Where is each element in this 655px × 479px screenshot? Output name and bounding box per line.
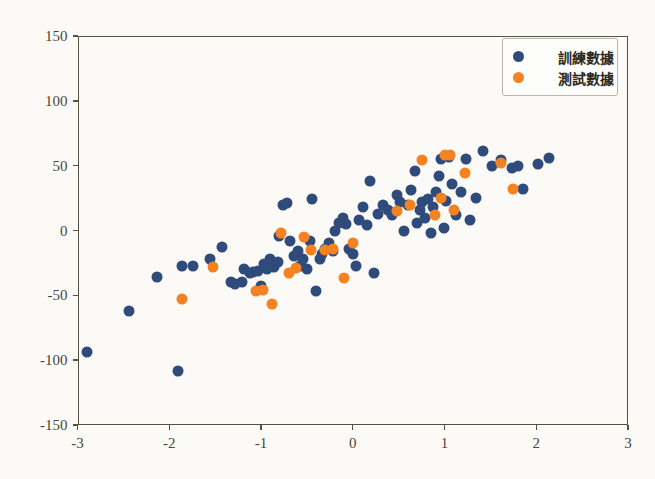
- y-tick-mark: [73, 295, 78, 296]
- x-tick-mark: [444, 425, 445, 430]
- y-tick-label: 150: [16, 28, 68, 45]
- x-tick-mark: [77, 425, 78, 430]
- x-tick-mark: [352, 425, 353, 430]
- x-tick-mark: [260, 425, 261, 430]
- chart-page: -150-100-50050100150 -3-2-10123 訓練數據 測試數…: [0, 0, 655, 479]
- chart-legend[interactable]: 訓練數據 測試數據: [502, 38, 618, 96]
- y-tick-mark: [73, 100, 78, 101]
- y-tick-label: 0: [16, 222, 68, 239]
- x-tick-label: -3: [71, 435, 84, 452]
- y-tick-mark: [73, 359, 78, 360]
- y-tick-mark: [73, 230, 78, 231]
- x-tick-label: 1: [441, 435, 449, 452]
- x-tick-label: 3: [624, 435, 632, 452]
- scatter-plot-figure: -150-100-50050100150 -3-2-10123 訓練數據 測試數…: [0, 0, 655, 479]
- legend-label-test: 測試數據: [558, 68, 614, 88]
- legend-label-train: 訓練數據: [558, 47, 614, 67]
- x-tick-label: -1: [255, 435, 268, 452]
- y-tick-label: -150: [16, 417, 68, 434]
- x-tick-label: 0: [349, 435, 357, 452]
- legend-marker-test-icon: [513, 72, 524, 83]
- y-tick-label: 50: [16, 157, 68, 174]
- x-tick-label: -2: [163, 435, 176, 452]
- legend-entry-test[interactable]: 測試數據: [513, 67, 605, 88]
- x-tick-label: 2: [533, 435, 541, 452]
- x-tick-mark: [627, 425, 628, 430]
- y-tick-label: -100: [16, 352, 68, 369]
- y-tick-label: 100: [16, 92, 68, 109]
- y-tick-mark: [73, 35, 78, 36]
- x-tick-mark: [536, 425, 537, 430]
- legend-entry-train[interactable]: 訓練數據: [513, 46, 605, 67]
- legend-marker-train-icon: [513, 51, 524, 62]
- y-tick-label: -50: [16, 287, 68, 304]
- x-tick-mark: [169, 425, 170, 430]
- y-tick-mark: [73, 165, 78, 166]
